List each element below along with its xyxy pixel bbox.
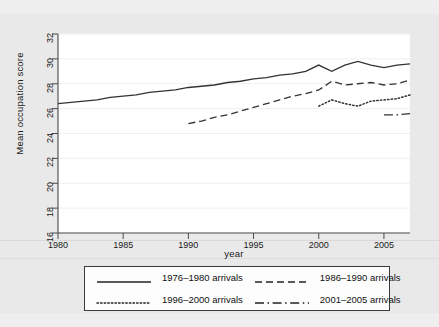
x-tick-label: 1995 [234,240,274,250]
x-axis-ticks [58,233,384,239]
legend-entry[interactable]: 2001–2005 arrivals [243,294,401,305]
x-tick-label: 1980 [38,240,78,250]
legend-label: 1986–1990 arrivals [320,272,401,283]
chart-figure: Mean occupation score year 1618202224262… [0,0,439,327]
y-tick-label: 26 [45,108,55,136]
y-tick-label: 18 [45,207,55,235]
chart-legend: 1976–1980 arrivals1986–1990 arrivals1996… [84,266,390,311]
legend-swatch-dashed [253,273,311,283]
legend-entry[interactable]: 1996–2000 arrivals [85,294,243,305]
legend-swatch-dashdot [253,294,311,304]
x-tick-label: 2000 [299,240,339,250]
legend-label: 1996–2000 arrivals [162,294,243,305]
legend-label: 1976–1980 arrivals [162,272,243,283]
y-axis-title: Mean occupation score [14,49,25,159]
y-tick-label: 28 [45,83,55,111]
x-tick-label: 2005 [364,240,404,250]
legend-label: 2001–2005 arrivals [320,294,401,305]
legend-swatch-solid [95,273,153,283]
y-tick-label: 32 [45,33,55,61]
legend-entry[interactable]: 1986–1990 arrivals [243,272,401,283]
y-tick-label: 24 [45,133,55,161]
y-tick-label: 22 [45,157,55,185]
legend-swatch-dotted [95,294,153,304]
y-tick-label: 30 [45,58,55,86]
y-tick-label: 20 [45,182,55,210]
legend-entry[interactable]: 1976–1980 arrivals [85,272,243,283]
x-tick-label: 1990 [168,240,208,250]
x-tick-label: 1985 [103,240,143,250]
